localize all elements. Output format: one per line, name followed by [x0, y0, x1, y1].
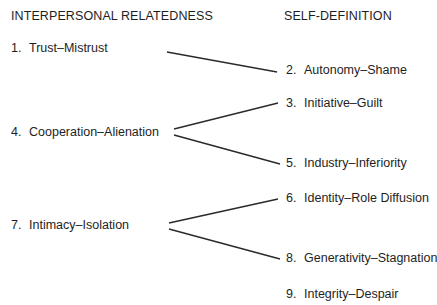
connector-1-2 — [167, 52, 277, 72]
connection-lines — [0, 0, 437, 305]
connector-4-3 — [174, 103, 278, 129]
connector-4-5 — [174, 135, 280, 164]
connector-7-6 — [169, 199, 278, 223]
connector-7-8 — [169, 229, 280, 259]
